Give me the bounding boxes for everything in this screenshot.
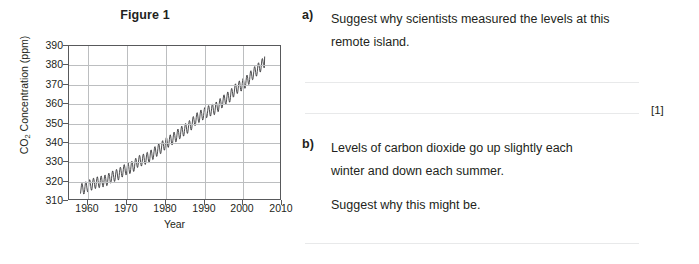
x-tick-mark-1960 <box>87 200 88 205</box>
y-tick-mark-380 <box>63 64 68 65</box>
gridline-vertical <box>243 46 244 199</box>
answer-line-a-1[interactable] <box>305 82 639 83</box>
y-tick-mark-320 <box>63 181 68 182</box>
question-b-line-1: Levels of carbon dioxide go up slightly … <box>331 137 661 160</box>
y-tick-mark-350 <box>63 123 68 124</box>
y-tick-320: 320 <box>35 176 63 186</box>
y-axis-tick-labels: 310320330340350360370380390 <box>33 45 63 200</box>
question-b-body: Levels of carbon dioxide go up slightly … <box>331 137 661 217</box>
gridline-horizontal <box>69 85 280 86</box>
question-a-body: Suggest why scientists measured the leve… <box>331 8 661 54</box>
figure-title: Figure 1 <box>0 8 290 22</box>
y-tick-340: 340 <box>35 137 63 147</box>
y-tick-360: 360 <box>35 98 63 108</box>
question-b-line-3: Suggest why this might be. <box>331 194 661 217</box>
y-tick-mark-340 <box>63 142 68 143</box>
answer-line-b-1[interactable] <box>305 243 639 244</box>
marks-a: [1] <box>651 104 664 116</box>
y-tick-390: 390 <box>35 40 63 50</box>
figure-panel: Figure 1 CO2 Concentration (ppm) 3103203… <box>0 0 295 264</box>
y-tick-370: 370 <box>35 79 63 89</box>
x-tick-mark-2010 <box>281 200 282 205</box>
y-tick-mark-360 <box>63 103 68 104</box>
co2-chart: CO2 Concentration (ppm) 3103203303403503… <box>0 30 295 250</box>
y-tick-350: 350 <box>35 118 63 128</box>
x-tick-mark-1990 <box>204 200 205 205</box>
y-tick-mark-390 <box>63 45 68 46</box>
x-axis-tick-labels: 196019701980199020002010 <box>0 202 295 218</box>
x-axis-label: Year <box>68 218 281 230</box>
plot-area <box>68 45 281 200</box>
question-a-line-1: Suggest why scientists measured the leve… <box>331 8 661 31</box>
question-a-line-2: remote island. <box>331 31 661 54</box>
question-a-marker: a) <box>302 8 313 22</box>
y-tick-mark-370 <box>63 84 68 85</box>
question-panel: a) Suggest why scientists measured the l… <box>295 0 699 264</box>
gridline-horizontal <box>69 65 280 66</box>
gridline-horizontal <box>69 124 280 125</box>
y-tick-mark-330 <box>63 161 68 162</box>
gridline-horizontal <box>69 143 280 144</box>
gridline-vertical <box>166 46 167 199</box>
gridline-vertical <box>127 46 128 199</box>
co2-series-line <box>81 57 265 194</box>
question-b-marker: b) <box>302 137 314 151</box>
gridline-vertical <box>88 46 89 199</box>
y-tick-380: 380 <box>35 59 63 69</box>
question-b-line-2: winter and down each summer. <box>331 160 661 183</box>
y-tick-330: 330 <box>35 156 63 166</box>
x-tick-mark-2000 <box>242 200 243 205</box>
gridline-vertical <box>205 46 206 199</box>
y-tick-mark-310 <box>63 200 68 201</box>
answer-line-a-2[interactable] <box>305 113 639 114</box>
x-tick-mark-1970 <box>126 200 127 205</box>
co2-data-line <box>69 46 280 199</box>
gridline-horizontal <box>69 182 280 183</box>
gridline-horizontal <box>69 162 280 163</box>
gridline-horizontal <box>69 104 280 105</box>
y-axis-label: CO2 Concentration (ppm) <box>18 25 32 165</box>
x-tick-mark-1980 <box>165 200 166 205</box>
